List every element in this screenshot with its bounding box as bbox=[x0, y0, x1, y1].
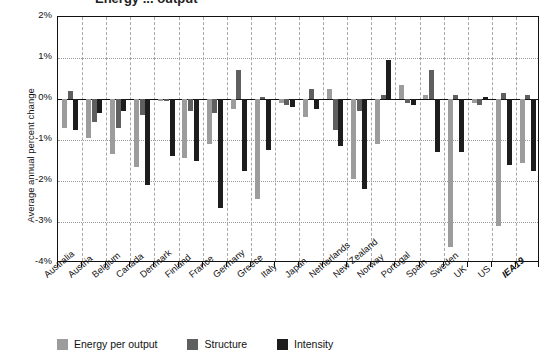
bar-group bbox=[82, 17, 106, 261]
bar-structure bbox=[188, 99, 193, 111]
bar-group bbox=[130, 17, 154, 261]
bar-group bbox=[492, 17, 516, 261]
bar-structure bbox=[453, 95, 458, 99]
legend-item[interactable]: Energy per output bbox=[57, 338, 157, 350]
bar-group bbox=[58, 17, 82, 261]
bar-group bbox=[323, 17, 347, 261]
bar-structure bbox=[164, 99, 169, 101]
bar-structure bbox=[429, 70, 434, 99]
bar-intensity bbox=[338, 99, 343, 146]
bar-intensity bbox=[145, 99, 150, 185]
bar-energy-per-output bbox=[255, 99, 260, 199]
bar-intensity bbox=[483, 97, 488, 99]
bar-intensity bbox=[242, 99, 247, 171]
bar-energy-per-output bbox=[327, 89, 332, 99]
bar-intensity bbox=[411, 99, 416, 105]
bar-structure bbox=[116, 99, 121, 128]
bar-structure bbox=[309, 89, 314, 99]
y-tick-label: 2% bbox=[18, 10, 52, 20]
bar-intensity bbox=[218, 99, 223, 208]
bar-group bbox=[347, 17, 371, 261]
bar-energy-per-output bbox=[496, 99, 501, 226]
chart-title: Energy ... output bbox=[95, 0, 198, 6]
legend-swatch-icon bbox=[277, 339, 288, 350]
bar-group bbox=[371, 17, 395, 261]
bar-intensity bbox=[97, 99, 102, 113]
bar-intensity bbox=[73, 99, 78, 130]
bar-intensity bbox=[121, 99, 126, 111]
bar-intensity bbox=[507, 99, 512, 165]
bar-structure bbox=[405, 99, 410, 103]
y-tick-label: 1% bbox=[18, 51, 52, 61]
legend-swatch-icon bbox=[187, 339, 198, 350]
bar-energy-per-output bbox=[231, 99, 236, 109]
bar-intensity bbox=[266, 99, 271, 150]
legend-item[interactable]: Intensity bbox=[277, 338, 333, 350]
bar-energy-per-output bbox=[158, 99, 163, 101]
bar-intensity bbox=[531, 99, 536, 171]
y-tick-label: -3% bbox=[18, 215, 52, 225]
bar-intensity bbox=[362, 99, 367, 189]
y-tick-label: -2% bbox=[18, 174, 52, 184]
legend-swatch-icon bbox=[57, 339, 68, 350]
x-axis-labels: AustraliaAustriaBelgiumCanadaDenmarkFinl… bbox=[0, 262, 559, 332]
bar-energy-per-output bbox=[207, 99, 212, 144]
chart-figure: Energy ... output Average annual percent… bbox=[0, 0, 559, 363]
bar-group bbox=[468, 17, 492, 261]
bar-intensity bbox=[435, 99, 440, 152]
bar-structure bbox=[284, 99, 289, 105]
bar-structure bbox=[260, 97, 265, 99]
bar-group bbox=[444, 17, 468, 261]
bar-group bbox=[106, 17, 130, 261]
legend-label: Structure bbox=[204, 338, 247, 350]
bar-energy-per-output bbox=[62, 99, 67, 128]
bar-structure bbox=[525, 95, 530, 99]
bar-energy-per-output bbox=[448, 99, 453, 247]
bar-energy-per-output bbox=[472, 99, 477, 103]
bar-structure bbox=[477, 99, 482, 105]
bar-energy-per-output bbox=[279, 99, 284, 103]
x-tick-label: US bbox=[476, 264, 492, 280]
plot-area bbox=[57, 16, 539, 262]
bar-structure bbox=[212, 99, 217, 113]
bar-structure bbox=[357, 99, 362, 111]
bar-energy-per-output bbox=[303, 99, 308, 117]
bar-intensity bbox=[194, 99, 199, 161]
legend-label: Intensity bbox=[294, 338, 333, 350]
bar-energy-per-output bbox=[86, 99, 91, 138]
bar-structure bbox=[140, 99, 145, 115]
bar-intensity bbox=[459, 99, 464, 152]
bar-group bbox=[203, 17, 227, 261]
bar-intensity bbox=[170, 99, 175, 156]
bar-group bbox=[251, 17, 275, 261]
bar-intensity bbox=[290, 99, 295, 107]
bar-group bbox=[227, 17, 251, 261]
bar-energy-per-output bbox=[182, 99, 187, 158]
y-tick-label: -1% bbox=[18, 133, 52, 143]
bar-structure bbox=[68, 91, 73, 99]
legend-item[interactable]: Structure bbox=[187, 338, 247, 350]
bar-structure bbox=[236, 70, 241, 99]
bar-energy-per-output bbox=[423, 95, 428, 99]
bar-structure bbox=[381, 95, 386, 99]
bar-group bbox=[395, 17, 419, 261]
bar-group bbox=[154, 17, 178, 261]
bar-energy-per-output bbox=[375, 99, 380, 144]
bar-structure bbox=[333, 99, 338, 130]
legend-label: Energy per output bbox=[74, 338, 157, 350]
bar-intensity bbox=[314, 99, 319, 109]
x-tick-label: Italy bbox=[259, 261, 278, 280]
bar-group bbox=[420, 17, 444, 261]
y-tick-label: 0% bbox=[18, 92, 52, 102]
chart-legend: Energy per outputStructureIntensity bbox=[57, 336, 363, 352]
bar-group bbox=[179, 17, 203, 261]
chart-title-strip: Energy ... output bbox=[0, 0, 559, 9]
bar-energy-per-output bbox=[134, 99, 139, 167]
bar-group bbox=[299, 17, 323, 261]
bar-group bbox=[275, 17, 299, 261]
bar-energy-per-output bbox=[399, 85, 404, 99]
bar-energy-per-output bbox=[110, 99, 115, 154]
bar-intensity bbox=[386, 60, 391, 99]
bar-energy-per-output bbox=[351, 99, 356, 179]
bar-structure bbox=[501, 93, 506, 99]
